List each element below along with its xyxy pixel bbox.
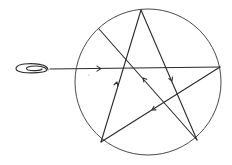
speck-mark (88, 74, 89, 75)
enclosing-circle (75, 9, 221, 155)
pentagram-diagram (0, 0, 232, 165)
diagram-canvas (0, 0, 232, 165)
incoming-ray (50, 67, 220, 69)
coil-icon (16, 64, 48, 73)
edge-top-to-bottom-right (141, 10, 197, 140)
edge-bottom-left-to-top (101, 10, 141, 142)
